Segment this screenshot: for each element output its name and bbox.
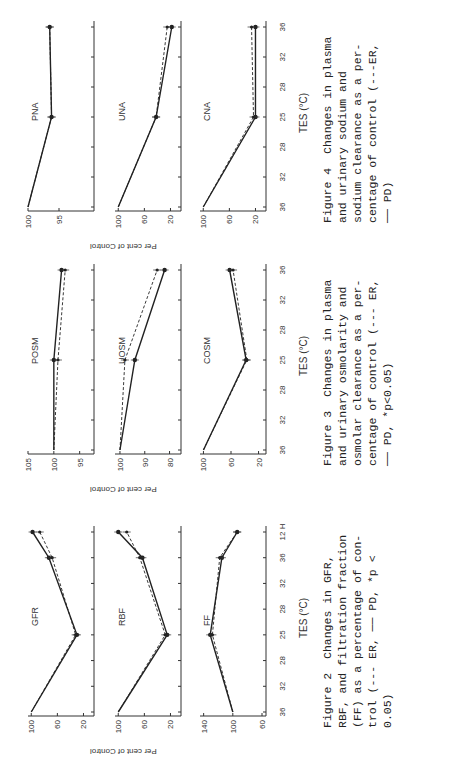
svg-text:32: 32 xyxy=(278,415,287,424)
svg-text:100: 100 xyxy=(50,457,59,471)
svg-text:36: 36 xyxy=(278,553,287,562)
figure-2-chart: 1006020GFR1006020RBF14010060FF3632282528… xyxy=(0,508,300,758)
figure-4: 10095PNA1006020UNA1006020CNA363228252832… xyxy=(0,3,449,253)
svg-text:36: 36 xyxy=(278,202,287,211)
y-axis-label: Per cent of Control xyxy=(90,747,157,756)
svg-text:60: 60 xyxy=(53,719,62,728)
svg-text:36: 36 xyxy=(278,445,287,454)
svg-text:28: 28 xyxy=(278,656,287,665)
svg-text:25: 25 xyxy=(278,112,287,121)
svg-text:80: 80 xyxy=(166,457,175,466)
rotated-page: 1006020GFR1006020RBF14010060FF3632282528… xyxy=(0,0,449,758)
svg-text:32: 32 xyxy=(278,578,287,587)
svg-text:100: 100 xyxy=(199,214,208,228)
figure-4-chart: 10095PNA1006020UNA1006020CNA363228252832… xyxy=(0,3,300,253)
svg-text:25: 25 xyxy=(278,355,287,364)
svg-text:60: 60 xyxy=(140,719,149,728)
svg-text:100: 100 xyxy=(199,457,208,471)
panel-title: UNA xyxy=(117,102,127,121)
svg-text:32: 32 xyxy=(278,681,287,690)
svg-text:12 H: 12 H xyxy=(278,523,287,540)
svg-text:28: 28 xyxy=(278,325,287,334)
svg-text:95: 95 xyxy=(76,457,85,466)
figure-3-chart: 10510095POSM1009080UOSM1006020COSM363228… xyxy=(0,246,300,496)
panel-title: POSM xyxy=(30,337,40,364)
svg-text:36: 36 xyxy=(278,22,287,31)
panel-title: GFR xyxy=(30,607,40,626)
y-axis-label: Per cent of Control xyxy=(90,485,157,494)
svg-text:36: 36 xyxy=(278,265,287,274)
svg-text:36: 36 xyxy=(278,707,287,716)
svg-text:20: 20 xyxy=(251,214,260,223)
panel-title: FF xyxy=(202,615,212,626)
svg-text:60: 60 xyxy=(258,719,267,728)
x-axis-label: TES (°C) xyxy=(298,336,309,376)
svg-text:28: 28 xyxy=(278,604,287,613)
svg-text:100: 100 xyxy=(116,457,125,471)
svg-text:100: 100 xyxy=(114,214,123,228)
svg-text:140: 140 xyxy=(200,719,209,733)
svg-text:105: 105 xyxy=(24,457,33,471)
svg-text:95: 95 xyxy=(55,214,64,223)
figure-2: 1006020GFR1006020RBF14010060FF3632282528… xyxy=(0,508,449,758)
svg-text:20: 20 xyxy=(255,457,264,466)
figure-3: 10510095POSM1009080UOSM1006020COSM363228… xyxy=(0,246,449,496)
panel-title: CNA xyxy=(202,102,212,121)
svg-text:28: 28 xyxy=(278,82,287,91)
svg-text:100: 100 xyxy=(114,719,123,733)
svg-text:28: 28 xyxy=(278,385,287,394)
svg-text:28: 28 xyxy=(278,142,287,151)
svg-text:20: 20 xyxy=(166,719,175,728)
x-axis-label: TES (°C) xyxy=(298,93,309,133)
svg-text:20: 20 xyxy=(79,719,88,728)
svg-text:20: 20 xyxy=(166,214,175,223)
svg-text:60: 60 xyxy=(225,214,234,223)
y-axis-label: Per cent of Control xyxy=(90,242,157,251)
panel-title: PNA xyxy=(30,102,40,121)
panel-title: RBF xyxy=(117,607,127,626)
svg-text:90: 90 xyxy=(141,457,150,466)
svg-text:60: 60 xyxy=(227,457,236,466)
figure-caption: Figure 4 Changes in plasma and urinary s… xyxy=(320,37,395,223)
svg-text:100: 100 xyxy=(229,719,238,733)
figure-caption: Figure 3 Changes in plasma and urinary o… xyxy=(320,280,395,466)
panel-title: COSM xyxy=(202,337,212,364)
x-axis-label: TES (°C) xyxy=(298,598,309,638)
svg-text:32: 32 xyxy=(278,295,287,304)
svg-text:100: 100 xyxy=(27,719,36,733)
svg-text:100: 100 xyxy=(24,214,33,228)
svg-text:32: 32 xyxy=(278,172,287,181)
figure-caption: Figure 2 Changes in GFR, RBF, and filtra… xyxy=(320,535,395,728)
svg-text:25: 25 xyxy=(278,630,287,639)
svg-text:60: 60 xyxy=(140,214,149,223)
svg-text:32: 32 xyxy=(278,52,287,61)
